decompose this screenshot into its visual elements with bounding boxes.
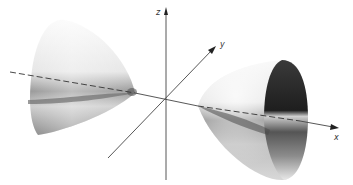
z-axis-label: z (155, 8, 161, 17)
x-arrow-icon (330, 124, 339, 130)
left-sheet (28, 20, 137, 135)
hyperboloid-diagram: z y x (0, 0, 353, 185)
x-axis-label: x (333, 133, 339, 142)
x-axis (135, 93, 198, 106)
y-axis-label: y (219, 40, 225, 49)
z-arrow-icon (164, 7, 168, 15)
